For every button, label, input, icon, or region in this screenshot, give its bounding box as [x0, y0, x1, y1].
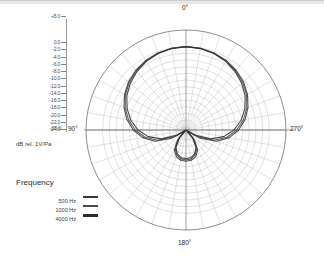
db-tick-mark	[61, 115, 66, 116]
db-tick-mark	[61, 49, 66, 50]
db-tick-mark	[61, 93, 66, 94]
db-tick-mark	[61, 71, 66, 72]
db-axis-min-label: -25.0	[50, 125, 61, 131]
db-tick-label: +5.0	[51, 12, 60, 20]
db-tick-row: +5.0	[12, 12, 74, 20]
db-tick-mark	[61, 16, 66, 17]
angle-label-0: 0°	[182, 4, 188, 11]
db-tick-mark	[61, 100, 66, 101]
db-tick-mark	[61, 107, 66, 108]
angle-label-180: 180°	[178, 239, 191, 246]
db-axis: +5.00.0-2.0-4.0-6.0-8.0-10.0-12.0-14.0-1…	[12, 16, 74, 134]
db-tick-mark	[61, 129, 66, 130]
polar-response-figure: +5.00.0-2.0-4.0-6.0-8.0-10.0-12.0-14.0-1…	[0, 0, 324, 264]
legend-item-label: 4000 Hz	[56, 216, 77, 222]
db-tick-mark	[61, 78, 66, 79]
db-axis-caption: dB rel. 1V/Pa	[16, 141, 51, 147]
scan-artifact-line	[0, 0, 324, 1]
angle-label-270: 270°	[290, 125, 303, 132]
db-tick-mark	[61, 42, 66, 43]
db-tick-row: -24.0	[12, 125, 74, 133]
db-tick-mark	[61, 57, 66, 58]
db-tick-mark	[61, 86, 66, 87]
angle-label-90: 90°	[68, 125, 78, 132]
db-tick-mark	[61, 64, 66, 65]
polar-plot	[84, 14, 294, 250]
db-tick-mark	[61, 122, 66, 123]
